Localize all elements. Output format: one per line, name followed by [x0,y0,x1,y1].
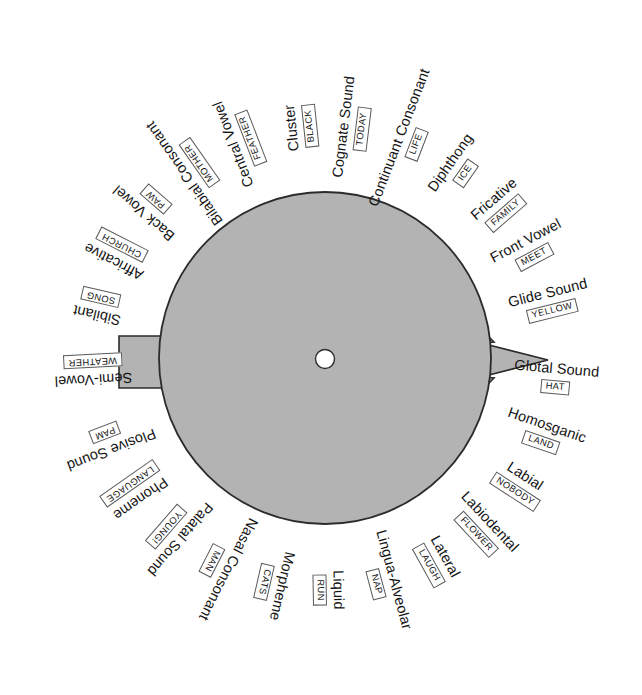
diagram-canvas: ClusterBLACKCognate SoundTODAYContinuant… [0,0,642,695]
center-hole [316,350,335,369]
wheel-label-example: HAT [540,379,570,396]
wheel-label: ClusterBLACK [282,102,320,152]
wheel-label-example-wrap: RUN [312,570,331,610]
wheel-label-term: Liquid [330,570,346,610]
wheel-label-example: WEATHER [63,352,123,370]
wheel-label-example: RUN [312,574,327,606]
wheel-label: Semi-VowelWEATHER [54,351,133,388]
wheel-label: LiquidRUN [312,570,346,610]
